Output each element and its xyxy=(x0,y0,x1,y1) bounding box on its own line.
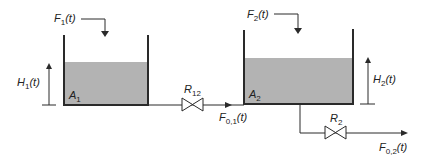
valve-r2-label: R2 xyxy=(330,112,342,127)
flow02-label: F0,2(t) xyxy=(379,141,407,156)
flow02-arrowhead-icon xyxy=(401,130,408,136)
tank1-inflow-arrow-icon xyxy=(81,19,105,33)
tank2-area-label: A2 xyxy=(249,88,261,103)
drain-pipe xyxy=(300,105,405,133)
flow01-label: F0,1(t) xyxy=(219,111,247,126)
valve-r2-icon xyxy=(325,126,346,139)
tank2-level-label: H2(t) xyxy=(373,73,396,88)
tank1-area-label: A1 xyxy=(69,89,81,104)
tank1-inflow-arrowhead-icon xyxy=(101,31,109,37)
valve-r12-label: R12 xyxy=(184,83,201,98)
tank2-level-arrow-icon xyxy=(365,57,371,63)
tank2-fluid xyxy=(245,58,352,104)
tank2-inflow-arrow-icon xyxy=(274,14,298,29)
flow01-arrowhead-icon xyxy=(225,102,232,108)
tank2-inflow-arrowhead-icon xyxy=(294,28,302,34)
tank1-level-arrow-icon xyxy=(46,63,52,69)
tank1-level-label: H1(t) xyxy=(17,76,40,91)
two-tank-diagram: F1(t) H1(t) A1 R12 F0,1(t) F2(t) H2(t) A… xyxy=(0,0,424,161)
tank2-inflow-label: F2(t) xyxy=(247,8,269,23)
valve-r12-icon xyxy=(182,98,203,111)
tank1-inflow-label: F1(t) xyxy=(54,12,76,27)
